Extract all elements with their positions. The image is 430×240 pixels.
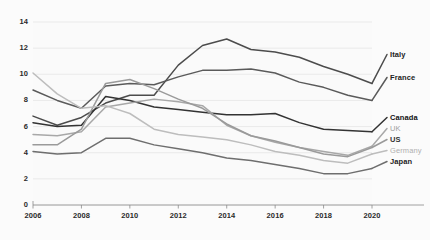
y-axis-tick-label: 14 bbox=[8, 17, 28, 26]
x-axis-tick-label: 2016 bbox=[258, 211, 292, 220]
series-leader-japan bbox=[372, 162, 387, 169]
chart-container: 0246810121420062008201020122014201620182… bbox=[0, 0, 430, 240]
y-axis-tick-label: 10 bbox=[8, 69, 28, 78]
x-axis-tick-label: 2010 bbox=[113, 211, 147, 220]
x-axis-tick-label: 2014 bbox=[210, 211, 244, 220]
y-axis-tick-label: 8 bbox=[8, 95, 28, 104]
series-leader-germany bbox=[372, 151, 387, 155]
y-axis-tick-label: 12 bbox=[8, 43, 28, 52]
series-leader-france bbox=[372, 78, 387, 101]
series-label-canada: Canada bbox=[390, 113, 418, 122]
x-axis-tick-label: 2020 bbox=[355, 211, 389, 220]
series-label-uk: UK bbox=[390, 124, 401, 133]
x-axis-tick-label: 2012 bbox=[161, 211, 195, 220]
series-leader-canada bbox=[372, 118, 387, 132]
series-label-japan: Japan bbox=[390, 157, 412, 166]
series-label-us: US bbox=[390, 135, 401, 144]
y-axis-tick-label: 0 bbox=[8, 200, 28, 209]
x-axis-tick-label: 2008 bbox=[64, 211, 98, 220]
series-label-germany: Germany bbox=[390, 146, 422, 155]
series-label-france: France bbox=[390, 73, 415, 82]
x-axis-tick-label: 2006 bbox=[16, 211, 50, 220]
y-axis-tick-label: 6 bbox=[8, 122, 28, 131]
line-chart-plot bbox=[0, 0, 430, 240]
y-axis-tick-label: 4 bbox=[8, 148, 28, 157]
series-leader-italy bbox=[372, 55, 387, 84]
y-axis-tick-label: 2 bbox=[8, 174, 28, 183]
x-axis-tick-label: 2018 bbox=[307, 211, 341, 220]
series-label-italy: Italy bbox=[390, 50, 406, 59]
